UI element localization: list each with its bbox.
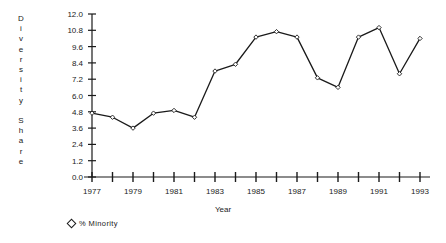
y-axis-tick-label: 12.0 xyxy=(67,10,83,19)
y-axis-tick-label: 7.2 xyxy=(72,75,84,84)
y-axis-tick-label: 4.8 xyxy=(72,108,84,117)
x-axis-tick-label: 1991 xyxy=(370,187,388,196)
y-axis-tick-label: 0.0 xyxy=(72,173,84,182)
data-point-marker xyxy=(377,25,381,29)
chart-legend: % Minority xyxy=(68,219,118,228)
data-point-marker xyxy=(356,35,360,39)
x-axis-tick-label: 1983 xyxy=(206,187,224,196)
y-axis-tick-label: 2.4 xyxy=(72,140,84,149)
x-axis-tick-label: 1979 xyxy=(124,187,142,196)
y-axis-tick-label: 10.8 xyxy=(67,26,83,35)
x-axis-tick-label: 1977 xyxy=(83,187,101,196)
y-axis-title: D i v e r s i t y S h a r e xyxy=(12,14,30,167)
y-axis-tick-label: 6.0 xyxy=(72,92,84,101)
data-point-marker xyxy=(274,29,278,33)
data-point-marker xyxy=(192,115,196,119)
x-axis-tick-label: 1989 xyxy=(329,187,347,196)
series-line-0 xyxy=(92,28,420,129)
chart-container: D i v e r s i t y S h a r e 0.01.22.43.6… xyxy=(0,0,446,243)
y-axis-tick-label: 3.6 xyxy=(72,124,84,133)
y-axis-tick-label: 8.4 xyxy=(72,59,84,68)
data-point-marker xyxy=(172,108,176,112)
x-axis-tick-label: 1987 xyxy=(288,187,306,196)
data-point-marker xyxy=(315,76,319,80)
data-point-marker xyxy=(295,35,299,39)
x-axis-tick-label: 1993 xyxy=(411,187,429,196)
data-point-marker xyxy=(213,69,217,73)
diamond-icon xyxy=(67,219,77,229)
data-point-marker xyxy=(336,85,340,89)
legend-entry-label: % Minority xyxy=(79,219,118,228)
x-axis-tick-label: 1981 xyxy=(165,187,183,196)
x-axis-title: Year xyxy=(0,205,446,214)
y-axis-tick-label: 9.6 xyxy=(72,43,84,52)
y-axis-tick-label: 1.2 xyxy=(72,157,84,166)
x-axis-tick-label: 1985 xyxy=(247,187,265,196)
